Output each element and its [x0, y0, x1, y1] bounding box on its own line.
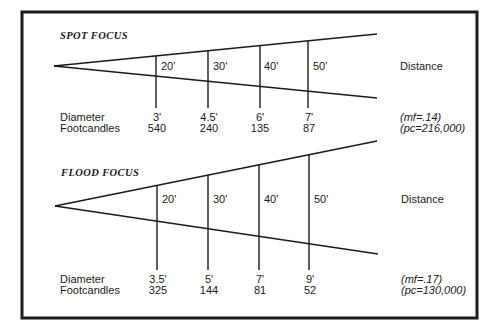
flood-footcandles-label: Footcandles	[60, 284, 120, 296]
flood-footcandles-40: 81	[240, 284, 280, 296]
flood-distance-30: 30'	[213, 193, 227, 205]
spot-pc: (pc=216,000)	[400, 122, 465, 134]
spot-footcandles-label: Footcandles	[60, 122, 120, 134]
flood-pc: (pc=130,000)	[401, 284, 466, 296]
flood-distance-40: 40'	[264, 193, 278, 205]
spot-distance-label: Distance	[400, 60, 443, 72]
spot-footcandles-40: 135	[240, 122, 280, 134]
flood-footcandles-50: 52	[290, 284, 330, 296]
flood-distance-50: 50'	[314, 193, 328, 205]
spot-distance-50: 50'	[313, 60, 327, 72]
flood-title: FLOOD FOCUS	[61, 167, 139, 179]
flood-footcandles-20: 325	[138, 284, 178, 296]
spot-footcandles-50: 87	[289, 122, 329, 134]
flood-distance-20: 20'	[162, 193, 176, 205]
flood-distance-label: Distance	[401, 193, 444, 205]
spot-distance-20: 20'	[161, 60, 175, 72]
beam-spread-diagram: SPOT FOCUS 20' 30' 40' 50' Distance Diam…	[0, 0, 495, 334]
flood-beam	[55, 141, 378, 270]
spot-footcandles-20: 540	[137, 122, 177, 134]
flood-footcandles-30: 144	[189, 284, 229, 296]
spot-footcandles-30: 240	[189, 122, 229, 134]
spot-title: SPOT FOCUS	[60, 30, 128, 42]
spot-distance-40: 40'	[264, 60, 278, 72]
spot-distance-30: 30'	[213, 60, 227, 72]
